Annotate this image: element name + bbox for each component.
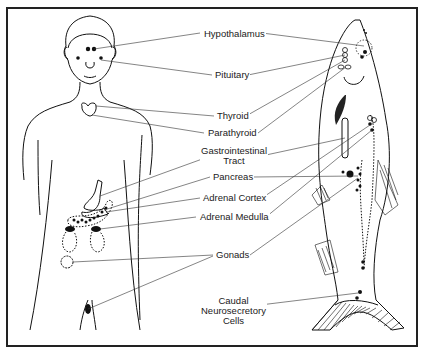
fish-fins	[312, 160, 400, 330]
human-thyroid	[82, 103, 97, 116]
human-stomach	[82, 180, 108, 218]
label-parathyroid: Parathyroid	[207, 128, 258, 138]
human-head	[65, 16, 116, 84]
human-pancreas	[68, 200, 113, 226]
label-gi-line2: Tract	[223, 155, 244, 166]
fish-body	[312, 20, 404, 330]
label-hypothalamus: Hypothalamus	[203, 29, 266, 39]
label-caudal-line3: Cells	[223, 315, 244, 326]
label-pancreas: Pancreas	[212, 172, 254, 182]
human-gonad	[61, 256, 73, 268]
label-thyroid: Thyroid	[216, 111, 250, 121]
label-adrenal-cortex: Adrenal Cortex	[202, 193, 267, 203]
fish-gill	[335, 95, 346, 125]
label-caudal-neurosecretory-cells: Caudal Neurosecretory Cells	[200, 296, 267, 326]
label-pituitary: Pituitary	[214, 70, 250, 80]
label-gonads: Gonads	[215, 250, 250, 260]
label-adrenal-medulla: Adrenal Medulla	[199, 212, 270, 222]
label-gastrointestinal-tract: Gastrointestinal Tract	[200, 146, 268, 166]
